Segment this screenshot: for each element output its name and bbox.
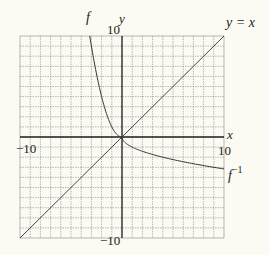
x-axis-label: x: [226, 127, 233, 142]
chart-canvas: f y 10 y = x x −10 10 −10 f−1: [0, 0, 269, 255]
y-min-tick-label: −10: [100, 233, 120, 248]
identity-label: y = x: [224, 15, 256, 30]
x-min-tick-label: −10: [16, 141, 36, 156]
f-inverse-label: f−1: [228, 164, 243, 183]
x-max-tick-label: 10: [218, 143, 231, 158]
y-max-tick-label: 10: [107, 22, 120, 37]
f-label: f: [86, 10, 92, 25]
